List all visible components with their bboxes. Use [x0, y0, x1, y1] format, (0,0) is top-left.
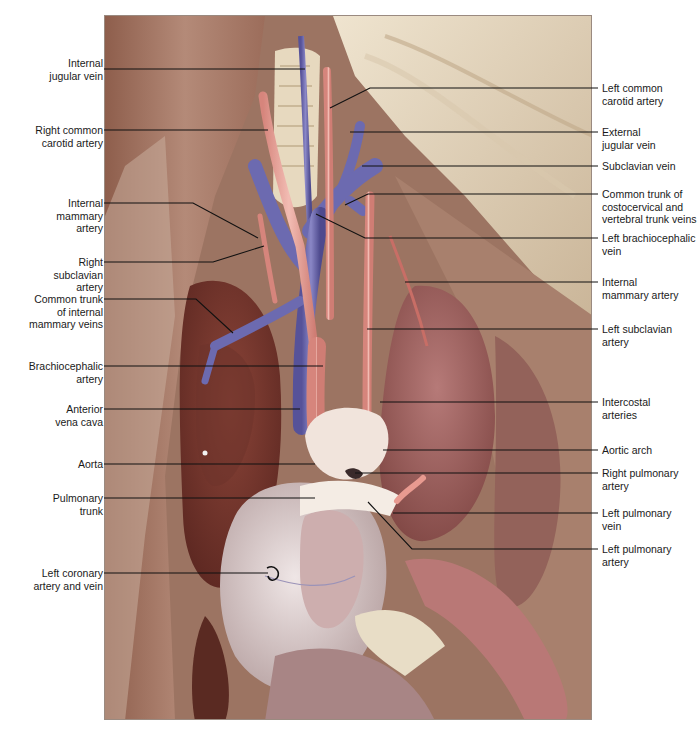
label-aortic-arch: Aortic arch — [602, 444, 652, 457]
label-external-jugular-vein: External jugular vein — [602, 126, 656, 151]
label-aorta: Aorta — [78, 458, 103, 471]
label-brachiocephalic-artery: Brachiocephalic artery — [29, 360, 103, 385]
label-left-pulmonary-vein: Left pulmonary vein — [602, 507, 671, 532]
label-common-trunk-costocervical-vertebral-veins: Common trunk of costocervical and verteb… — [602, 188, 697, 226]
label-left-brachiocephalic-vein: Left brachiocephalic vein — [602, 232, 695, 257]
label-left-pulmonary-artery: Left pulmonary artery — [602, 543, 671, 568]
label-internal-mammary-artery-right: Internal mammary artery — [602, 276, 678, 301]
label-internal-jugular-vein: Internal jugular vein — [49, 57, 103, 82]
label-right-pulmonary-artery: Right pulmonary artery — [602, 467, 678, 492]
dissection-photo — [104, 15, 592, 720]
label-internal-mammary-artery-left: Internal mammary artery — [56, 197, 103, 235]
label-subclavian-vein: Subclavian vein — [602, 160, 676, 173]
label-intercostal-arteries: Intercostal arteries — [602, 396, 650, 421]
dissection-illustration — [105, 16, 592, 720]
label-right-subclavian-artery: Right subclavian artery — [53, 256, 103, 294]
label-left-common-carotid-artery: Left common carotid artery — [602, 82, 663, 107]
label-left-coronary-artery-and-vein: Left coronary artery and vein — [34, 567, 103, 592]
label-pulmonary-trunk: Pulmonary trunk — [53, 492, 103, 517]
label-left-subclavian-artery: Left subclavian artery — [602, 323, 672, 348]
label-common-trunk-internal-mammary-veins: Common trunk of internal mammary veins — [29, 293, 103, 331]
label-anterior-vena-cava: Anterior vena cava — [55, 403, 103, 428]
label-right-common-carotid-artery: Right common carotid artery — [35, 124, 103, 149]
